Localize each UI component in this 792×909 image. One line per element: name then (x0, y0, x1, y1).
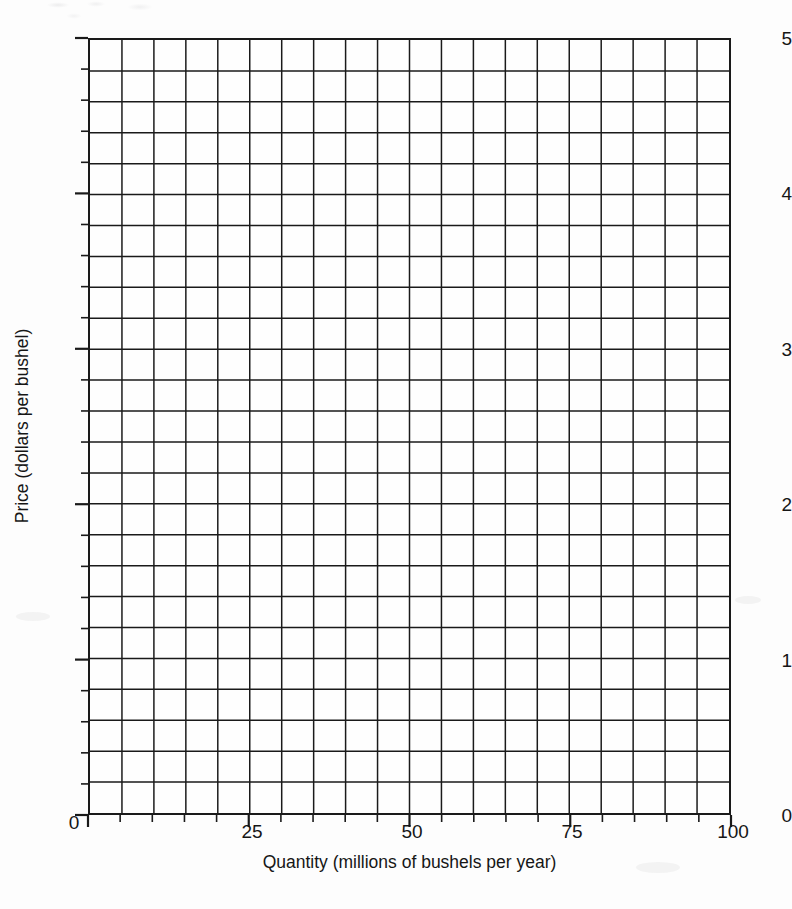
supply-demand-grid-chart: 5 4 3 2 1 0 0 25 50 75 100 Quantity (mil… (0, 0, 792, 909)
y-tick-label-5: 5 (714, 29, 792, 48)
x-tick-label-0: 0 (69, 813, 80, 832)
y-axis-title-text: Price (dollars per bushel) (12, 329, 33, 524)
y-tick-label-2: 2 (714, 495, 792, 514)
grid-mesh (90, 40, 729, 813)
x-tick-label-25: 25 (241, 822, 262, 841)
x-tick-label-100: 100 (717, 822, 749, 841)
x-tick-label-50: 50 (401, 822, 422, 841)
y-axis-title: Price (dollars per bushel) (0, 0, 40, 909)
y-tick-label-3: 3 (714, 340, 792, 359)
x-tick-label-75: 75 (561, 822, 582, 841)
y-tick-label-1: 1 (714, 651, 792, 670)
plot-area (88, 38, 731, 815)
y-tick-label-4: 4 (714, 184, 792, 203)
x-axis-title: Quantity (millions of bushels per year) (88, 852, 731, 873)
